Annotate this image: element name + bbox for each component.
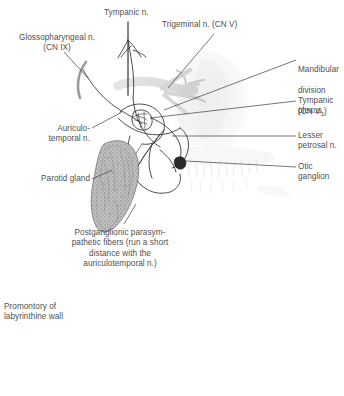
mandibular-line1: Mandibular <box>298 65 339 74</box>
label-promontory-labyrinthine-wall: Promontory of labyrinthine wall <box>4 302 124 323</box>
label-otic-ganglion: Otic ganglion <box>298 162 344 183</box>
label-tympanic-plexus: Tympanic plexus <box>298 96 344 117</box>
parotid-gland <box>91 141 139 232</box>
leader-auriculotemporal <box>92 112 122 128</box>
mandibular-line2: division <box>298 86 326 95</box>
label-postganglionic-fibers: Postganglionic parasym- pathetic fibers … <box>52 228 188 270</box>
label-lesser-petrosal-nerve: Lesser petrosal n. <box>298 131 344 152</box>
label-auriculotemporal-nerve: Auriculo- temporal n. <box>18 124 90 145</box>
label-tympanic-nerve: Tympanic n. <box>104 8 200 18</box>
label-glossopharyngeal-nerve: Glossopharyngeal n. (CN IX) <box>2 33 112 54</box>
skull-background <box>173 51 292 197</box>
anatomy-illustration <box>0 0 344 396</box>
label-parotid-gland: Parotid gland <box>8 174 90 184</box>
anatomical-figure: Tympanic n. Trigeminal n. (CN V) Glossop… <box>0 0 344 396</box>
label-trigeminal-nerve: Trigeminal n. (CN V) <box>162 20 282 30</box>
